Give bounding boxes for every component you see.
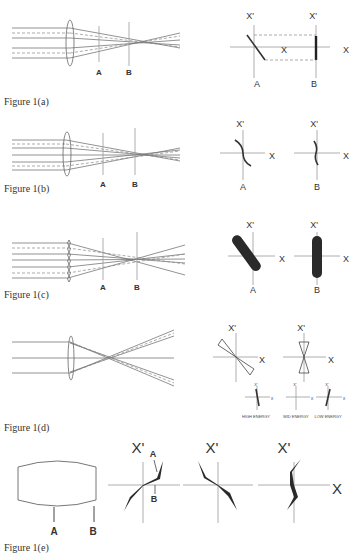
magnet-icon <box>18 461 96 506</box>
axis-label-xp: X' <box>325 382 328 387</box>
axis-label-x: X <box>259 355 265 365</box>
axis-label-xp: X' <box>278 439 291 456</box>
phase-plot-label: B <box>314 182 320 192</box>
axis-label-xp: X' <box>228 323 236 333</box>
plane-label-a: A <box>100 283 106 292</box>
axis-label-xp: X' <box>309 11 317 21</box>
energy-label-low: LOW ENERGY <box>314 414 341 419</box>
axis-label-x: X <box>332 480 342 497</box>
axis-label-xp: X' <box>310 119 318 129</box>
axis-label-xp: X' <box>297 323 305 333</box>
plane-label-b: B <box>132 180 138 189</box>
phase-plot-label: A <box>240 182 246 192</box>
energy-label-mid: MID ENERGY <box>283 414 308 419</box>
axis-label-xp: X' <box>310 220 318 230</box>
fig-1b-ray-diagram <box>12 128 180 176</box>
axis-label-x: X <box>279 254 285 264</box>
axis-label-x: X <box>343 151 349 161</box>
axis-label-x: X <box>311 396 314 401</box>
multi-lens-icon <box>68 240 71 282</box>
axis-label-x: X <box>281 45 287 55</box>
energy-label-high: HIGH ENERGY <box>242 414 270 419</box>
fig-1d-phase-plots <box>213 333 342 410</box>
caption-fig-1c: Figure 1(c) <box>4 289 49 300</box>
axis-label-xp: X' <box>132 439 145 456</box>
axis-label-x: X <box>269 151 275 161</box>
phase-plot-label: A <box>250 285 256 295</box>
axis-label-x: X <box>343 396 346 401</box>
phase-plot-label: B <box>311 79 317 89</box>
axis-label-xp: X' <box>246 11 254 21</box>
caption-fig-1e: Figure 1(e) <box>4 542 49 553</box>
axis-label-xp: X' <box>293 382 296 387</box>
caption-fig-1b: Figure 1(b) <box>4 183 49 194</box>
phase-plot-label: A <box>254 79 260 89</box>
fig-1e-magnet-diagram <box>18 461 96 522</box>
fig-1e-phase-plots <box>108 459 330 523</box>
plane-label-b: B <box>126 68 132 77</box>
axis-label-xp: X' <box>236 119 244 129</box>
fig-1c-ray-diagram <box>12 232 185 282</box>
phase-plot-label: B <box>314 285 320 295</box>
lens-icon <box>66 20 74 66</box>
figure-canvas <box>0 0 359 560</box>
annotation-b: B <box>151 494 158 504</box>
axis-label-xp: X' <box>246 220 254 230</box>
axis-label-x: X <box>343 45 349 55</box>
axis-label-x: X <box>328 355 334 365</box>
plane-label-a: A <box>100 180 106 189</box>
axis-label-x: X <box>343 254 349 264</box>
plane-label-b: B <box>89 526 96 537</box>
plane-label-a: A <box>96 68 102 77</box>
caption-fig-1d: Figure 1(d) <box>4 422 49 433</box>
energy-mini-plots <box>245 386 342 410</box>
fig-1a-ray-diagram <box>12 20 180 66</box>
fig-1b-phase-plots <box>220 130 340 180</box>
annotation-a: A <box>150 449 157 459</box>
plane-label-b: B <box>134 283 140 292</box>
plane-label-a: A <box>50 526 57 537</box>
axis-label-xp: X' <box>254 382 257 387</box>
axis-label-x: X <box>271 396 274 401</box>
caption-fig-1a: Figure 1(a) <box>4 96 49 107</box>
axis-label-xp: X' <box>206 439 219 456</box>
fig-1d-ray-diagram <box>12 330 174 386</box>
